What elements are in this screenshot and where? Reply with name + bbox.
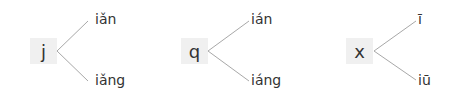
initial-box-q: q	[181, 38, 208, 64]
final-x-top: ī	[418, 11, 422, 27]
final-q-top: ián	[251, 11, 272, 27]
connector-q-bottom	[208, 51, 249, 81]
connector-lines	[0, 0, 453, 96]
final-x-bottom: iū	[418, 72, 431, 88]
final-j-top: iǎn	[95, 11, 116, 27]
initial-box-x: x	[346, 38, 373, 64]
connector-x-bottom	[374, 51, 416, 80]
connector-j-bottom	[57, 51, 88, 81]
final-j-bottom: iǎng	[95, 72, 125, 88]
initial-box-j: j	[30, 38, 57, 64]
connector-x-top	[374, 21, 416, 51]
connector-j-top	[57, 21, 88, 51]
final-q-bottom: iáng	[251, 72, 281, 88]
connector-q-top	[208, 21, 249, 51]
